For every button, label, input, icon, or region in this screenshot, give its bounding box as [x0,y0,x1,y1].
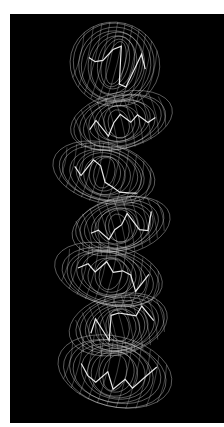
helix-mesh-graphic [10,14,224,423]
mesh-lobe [48,232,170,318]
mesh-lobe [64,81,179,162]
density-mesh-image [10,14,224,423]
